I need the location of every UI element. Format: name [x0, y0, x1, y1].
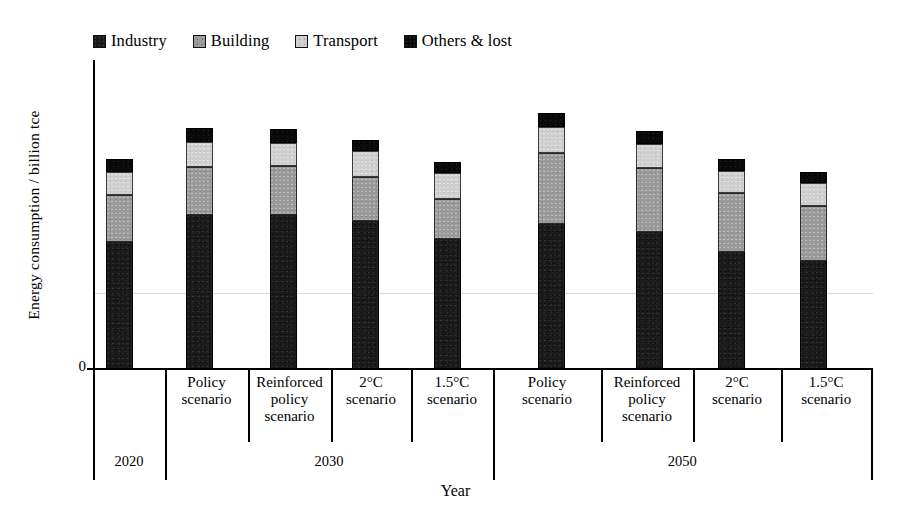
year-divider-2 — [493, 442, 495, 480]
y-axis-tick-label-zero: 0 — [66, 358, 86, 375]
bar-segment-others-lost[interactable] — [186, 128, 213, 143]
category-divider-5 — [493, 370, 495, 442]
category-label-8: 2°Cscenario — [693, 370, 781, 442]
category-label-2: Policyscenario — [165, 370, 248, 442]
bar-segment-others-lost[interactable] — [800, 172, 827, 183]
legend-item-others-lost[interactable]: Others & lost — [404, 33, 512, 49]
bar-9[interactable] — [800, 172, 827, 368]
chart-container: Industry Building Transport Others & los… — [0, 0, 911, 524]
legend-label-transport: Transport — [313, 33, 377, 49]
category-label-1 — [93, 370, 165, 442]
bar-segment-others-lost[interactable] — [434, 162, 461, 173]
category-label-6: Policyscenario — [493, 370, 601, 442]
bar-segment-transport[interactable] — [106, 172, 133, 195]
legend-label-building: Building — [211, 33, 270, 49]
bar-8[interactable] — [718, 159, 745, 368]
bar-4[interactable] — [352, 140, 379, 369]
year-label-2020: 2020 — [93, 442, 165, 480]
bar-segment-industry[interactable] — [434, 239, 461, 369]
label-table-left-edge — [93, 370, 95, 480]
year-label-band: 202020302050 — [93, 442, 873, 480]
y-axis-title-text: Energy consumption / billion tce — [25, 110, 43, 319]
bar-segment-building[interactable] — [800, 206, 827, 261]
bar-segment-others-lost[interactable] — [718, 159, 745, 171]
bar-segment-building[interactable] — [718, 193, 745, 251]
label-table-right-edge — [871, 370, 873, 480]
bar-segment-industry[interactable] — [636, 232, 663, 369]
bar-segment-transport[interactable] — [352, 151, 379, 177]
bar-segment-building[interactable] — [106, 195, 133, 242]
legend-label-industry: Industry — [111, 33, 167, 49]
bar-segment-others-lost[interactable] — [270, 129, 297, 143]
bar-segment-industry[interactable] — [106, 242, 133, 368]
bar-segment-others-lost[interactable] — [636, 131, 663, 143]
bar-segment-building[interactable] — [538, 153, 565, 224]
plot-area — [93, 60, 873, 370]
category-label-band: PolicyscenarioReinforcedpolicyscenario2°… — [93, 370, 873, 442]
bar-segment-building[interactable] — [434, 199, 461, 239]
bar-segment-transport[interactable] — [538, 127, 565, 153]
bar-segment-industry[interactable] — [352, 221, 379, 369]
bar-segment-transport[interactable] — [718, 171, 745, 194]
bar-segment-industry[interactable] — [718, 252, 745, 369]
bar-segment-building[interactable] — [186, 167, 213, 215]
bar-segment-building[interactable] — [636, 168, 663, 232]
bar-segment-building[interactable] — [352, 177, 379, 221]
bar-segment-industry[interactable] — [186, 215, 213, 368]
category-divider-8 — [781, 370, 783, 442]
bar-segment-transport[interactable] — [434, 173, 461, 199]
category-divider-2 — [248, 370, 250, 442]
bar-segment-transport[interactable] — [186, 142, 213, 167]
y-axis-title: Energy consumption / billion tce — [22, 70, 46, 360]
category-label-5: 1.5°Cscenario — [411, 370, 493, 442]
bar-segment-transport[interactable] — [636, 144, 663, 168]
bar-segment-building[interactable] — [270, 166, 297, 215]
year-label-2050: 2050 — [493, 442, 871, 480]
legend-swatch-icon-transport — [295, 35, 308, 48]
legend-item-transport[interactable]: Transport — [295, 33, 377, 49]
bar-segment-others-lost[interactable] — [538, 113, 565, 127]
category-divider-6 — [601, 370, 603, 442]
bar-2[interactable] — [186, 128, 213, 369]
bar-5[interactable] — [434, 162, 461, 368]
legend-label-others-lost: Others & lost — [422, 33, 512, 49]
legend-swatch-icon-others-lost — [404, 35, 417, 48]
category-label-3: Reinforcedpolicyscenario — [248, 370, 331, 442]
bar-7[interactable] — [636, 131, 663, 368]
legend-swatch-icon-industry — [93, 35, 106, 48]
category-divider-3 — [331, 370, 333, 442]
bar-segment-industry[interactable] — [800, 261, 827, 369]
bar-segment-industry[interactable] — [270, 215, 297, 368]
category-divider-1 — [165, 370, 167, 442]
year-label-2030: 2030 — [165, 442, 493, 480]
bar-3[interactable] — [270, 129, 297, 368]
bar-segment-others-lost[interactable] — [352, 140, 379, 152]
category-divider-4 — [411, 370, 413, 442]
category-label-7: Reinforcedpolicyscenario — [601, 370, 693, 442]
bar-segment-industry[interactable] — [538, 224, 565, 368]
category-label-9: 1.5°Cscenario — [781, 370, 871, 442]
legend-swatch-icon-building — [193, 35, 206, 48]
bar-1[interactable] — [106, 159, 133, 369]
legend-item-building[interactable]: Building — [193, 33, 270, 49]
year-divider-1 — [165, 442, 167, 480]
bar-segment-transport[interactable] — [800, 183, 827, 206]
bar-segment-others-lost[interactable] — [106, 159, 133, 173]
bar-6[interactable] — [538, 113, 565, 368]
bar-segment-transport[interactable] — [270, 143, 297, 166]
legend-item-industry[interactable]: Industry — [93, 33, 167, 49]
y-axis-line — [93, 60, 95, 370]
category-divider-7 — [693, 370, 695, 442]
x-axis-title: Year — [0, 482, 911, 500]
category-label-4: 2°Cscenario — [331, 370, 411, 442]
chart-legend: Industry Building Transport Others & los… — [93, 28, 593, 54]
